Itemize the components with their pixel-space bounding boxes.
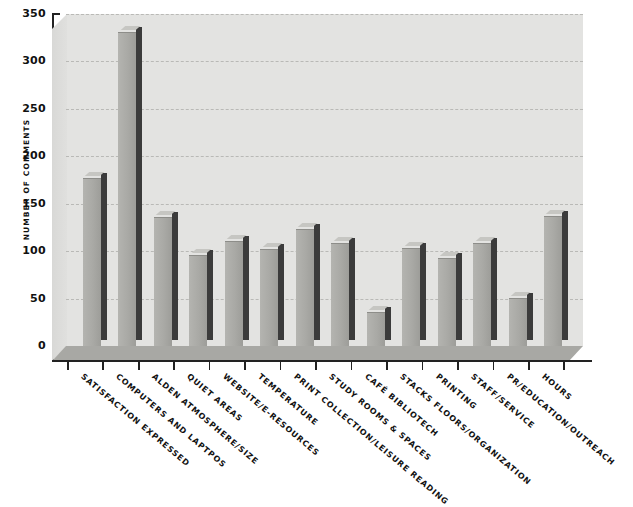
y-tick-label: 350	[16, 8, 46, 19]
bar	[544, 211, 568, 346]
x-tick-label: HOURS	[540, 372, 574, 402]
y-tick-label: 100	[16, 245, 46, 256]
bar-series	[52, 14, 583, 361]
bar-side-face	[172, 212, 178, 340]
bar-side-face	[101, 173, 107, 340]
bar	[225, 236, 249, 346]
x-tick-label: STAFF/SERVICE	[469, 372, 536, 430]
bar-front-face	[118, 32, 136, 346]
bar	[331, 238, 355, 346]
bar	[83, 173, 107, 346]
bar-side-face	[136, 27, 142, 340]
bar-side-face	[207, 250, 213, 340]
bar-front-face	[438, 258, 456, 346]
bar-side-face	[278, 244, 284, 340]
bar-front-face	[367, 312, 385, 346]
bar	[260, 244, 284, 346]
bar	[438, 253, 462, 346]
y-tick-label: 50	[16, 293, 46, 304]
bar-side-face	[491, 238, 497, 340]
y-tick-label: 200	[16, 150, 46, 161]
y-tick-label: 0	[16, 340, 46, 351]
bar-front-face	[331, 243, 349, 346]
bar-side-face	[385, 307, 391, 340]
y-axis-tick-labels: 050100150200250300350	[8, 0, 46, 380]
bar-front-face	[509, 298, 527, 346]
bar	[189, 250, 213, 346]
bar-front-face	[189, 255, 207, 346]
bar-front-face	[260, 249, 278, 346]
y-tick-label: 250	[16, 103, 46, 114]
bar-side-face	[456, 253, 462, 340]
bar	[154, 212, 178, 346]
bar-front-face	[154, 217, 172, 346]
bar	[473, 238, 497, 346]
x-tick-label: STACKS FLOORS/ORGANIZATION	[398, 372, 533, 487]
bar-front-face	[473, 243, 491, 346]
bar-side-face	[314, 224, 320, 340]
bar-side-face	[420, 243, 426, 340]
bar-front-face	[544, 216, 562, 346]
bar-side-face	[562, 211, 568, 340]
bar-side-face	[349, 238, 355, 340]
y-tick-label: 300	[16, 55, 46, 66]
bar-front-face	[225, 241, 243, 346]
bar-side-face	[527, 293, 533, 340]
y-tick-label: 150	[16, 198, 46, 209]
x-tick-label: TEMPERATURE	[256, 372, 320, 427]
bar-side-face	[243, 236, 249, 340]
plot-area	[52, 14, 583, 361]
bar	[509, 293, 533, 346]
bar	[402, 243, 426, 346]
bar-top-face	[475, 237, 495, 241]
bar	[367, 307, 391, 346]
bar	[296, 224, 320, 346]
bar-front-face	[83, 178, 101, 346]
bar	[118, 27, 142, 346]
bar-front-face	[402, 248, 420, 346]
x-axis-tick-labels: SATISFACTION EXPRESSEDCOMPUTERS AND LAPT…	[0, 368, 633, 503]
bar-front-face	[296, 229, 314, 346]
